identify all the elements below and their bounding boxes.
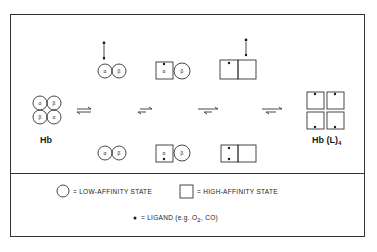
- equilibrium-arrow-4: [262, 107, 282, 114]
- svg-text:β: β: [118, 150, 121, 156]
- bottom-dimer-square-circle: [156, 145, 190, 162]
- legend-low-affinity: = LOW-AFFINITY STATE: [73, 188, 152, 195]
- svg-text:α: α: [53, 114, 56, 120]
- svg-text:α: α: [104, 68, 107, 74]
- hb-liganded-tetramer: [307, 92, 344, 129]
- svg-text:β: β: [181, 68, 184, 74]
- svg-text:α: α: [163, 150, 166, 156]
- top-dimer-squares: [220, 42, 256, 79]
- top-dimer-circles: [98, 45, 126, 78]
- equilibrium-arrow-2: [138, 107, 152, 114]
- bottom-dimer-circles: [98, 146, 126, 160]
- svg-text:β: β: [181, 150, 184, 156]
- legend-circle-icon: [57, 185, 69, 197]
- subunit-labels: α β β α α β α β α β α β: [39, 68, 184, 156]
- equilibrium-arrow-1: [77, 107, 91, 114]
- svg-text:β: β: [118, 68, 121, 74]
- top-dimer-square-circle: [156, 62, 190, 79]
- svg-text:α: α: [163, 68, 166, 74]
- legend-square-icon: [180, 185, 193, 198]
- svg-text:β: β: [53, 100, 56, 106]
- legend-ligand: = LIGAND (e.g. O2, CO): [141, 214, 218, 223]
- svg-text:β: β: [39, 114, 42, 120]
- hb-label: Hb: [40, 135, 52, 145]
- svg-text:α: α: [39, 100, 42, 106]
- equilibrium-arrow-3: [198, 107, 218, 114]
- bottom-dimer-squares: [221, 145, 256, 162]
- legend-high-affinity: = HIGH-AFFINITY STATE: [197, 188, 278, 195]
- hb-deoxy-tetramer: [33, 96, 61, 124]
- hb-l4-label: Hb (L)4: [312, 135, 342, 146]
- svg-text:α: α: [104, 150, 107, 156]
- hemoglobin-cooperativity-diagram: α β β α α β α β α β α β Hb Hb (L)4 = LOW…: [0, 0, 377, 252]
